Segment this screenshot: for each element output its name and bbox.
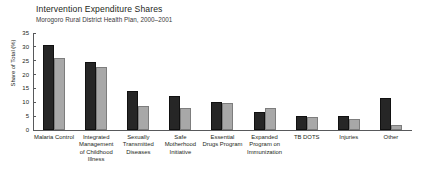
bar-group (286, 33, 328, 130)
bar-group (33, 33, 75, 130)
bar-light (349, 119, 360, 130)
x-tick-label: Other (370, 134, 412, 164)
bar-group (117, 33, 159, 130)
bar-group (244, 33, 286, 130)
x-tick-label: Malaria Control (33, 134, 75, 164)
y-axis-label: Share of Total (%) (10, 33, 16, 93)
bar-group (201, 33, 243, 130)
bar-dark (127, 91, 138, 130)
x-axis-line (33, 130, 412, 131)
x-tick-label: Integrated Management of Childhood Illne… (75, 134, 117, 164)
x-axis-labels: Malaria ControlIntegrated Management of … (33, 134, 412, 164)
y-tick-label: 10 (22, 99, 33, 105)
x-tick-label: Expanded Program on Immunization (244, 134, 286, 164)
bar-groups (33, 33, 412, 130)
bar-light (54, 58, 65, 130)
y-tick-label: 30 (22, 44, 33, 50)
bar-light (222, 103, 233, 130)
y-tick-label: 0 (26, 127, 33, 133)
chart-figure: Intervention Expenditure Shares Morogoro… (0, 0, 421, 174)
chart-subtitle: Morogoro Rural District Health Plan, 200… (36, 16, 172, 23)
y-tick-label: 5 (26, 113, 33, 119)
bar-group (370, 33, 412, 130)
bar-dark (338, 116, 349, 130)
bar-dark (254, 112, 265, 130)
bar-dark (43, 45, 54, 130)
bar-light (96, 67, 107, 130)
y-tick-label: 25 (22, 58, 33, 64)
x-tick-label: Essential Drugs Program (201, 134, 243, 164)
chart-title: Intervention Expenditure Shares (36, 4, 163, 14)
bar-dark (169, 96, 180, 130)
bar-light (180, 108, 191, 130)
bar-group (75, 33, 117, 130)
x-tick-label: Safe Motherhood Initiative (159, 134, 201, 164)
x-tick-label: Injuries (328, 134, 370, 164)
bar-dark (296, 116, 307, 130)
plot-area (33, 33, 412, 130)
y-tick-label: 20 (22, 72, 33, 78)
bar-group (328, 33, 370, 130)
bar-light (391, 125, 402, 130)
y-tick-label: 15 (22, 85, 33, 91)
bar-light (307, 117, 318, 130)
y-tick-label: 35 (22, 30, 33, 36)
bar-dark (380, 98, 391, 130)
bar-dark (211, 102, 222, 130)
bar-light (265, 108, 276, 130)
bar-dark (85, 62, 96, 130)
bar-group (159, 33, 201, 130)
x-tick-label: TB DOTS (286, 134, 328, 164)
x-tick-label: Sexually Transmitted Diseases (117, 134, 159, 164)
bar-light (138, 106, 149, 130)
